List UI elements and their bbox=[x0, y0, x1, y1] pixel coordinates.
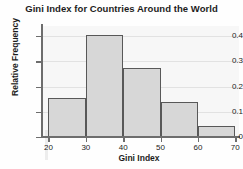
x-tick-label: 30 bbox=[74, 143, 98, 152]
bar bbox=[161, 102, 198, 137]
y-tick-label: 0.1 bbox=[209, 107, 243, 116]
y-tick-label: 0 bbox=[209, 132, 243, 141]
y-axis-line bbox=[41, 24, 43, 138]
y-tick bbox=[36, 61, 41, 62]
bar bbox=[86, 35, 123, 137]
y-tick-label: 0.3 bbox=[209, 56, 243, 65]
bar bbox=[123, 68, 160, 137]
x-tick-label: 50 bbox=[149, 143, 173, 152]
y-tick bbox=[36, 112, 41, 113]
y-tick-label: 0.4 bbox=[209, 31, 243, 40]
x-tick bbox=[86, 137, 87, 142]
x-tick bbox=[235, 137, 236, 142]
y-tick bbox=[36, 36, 41, 37]
y-axis-label: Relative Frequency bbox=[10, 2, 20, 112]
y-tick-label: 0.2 bbox=[209, 82, 243, 91]
x-tick bbox=[198, 137, 199, 142]
x-axis-label: Gini Index bbox=[49, 153, 229, 163]
y-tick bbox=[36, 137, 41, 138]
x-tick-label: 70 bbox=[223, 143, 243, 152]
x-tick bbox=[123, 137, 124, 142]
x-tick bbox=[48, 137, 49, 142]
histogram-chart: Gini Index for Countries Around the Worl… bbox=[0, 0, 243, 169]
x-tick-label: 20 bbox=[36, 143, 60, 152]
y-tick bbox=[36, 87, 41, 88]
x-tick-label: 40 bbox=[111, 143, 135, 152]
x-tick-label: 60 bbox=[186, 143, 210, 152]
x-tick bbox=[161, 137, 162, 142]
bar bbox=[48, 98, 85, 137]
chart-title: Gini Index for Countries Around the Worl… bbox=[0, 3, 243, 14]
